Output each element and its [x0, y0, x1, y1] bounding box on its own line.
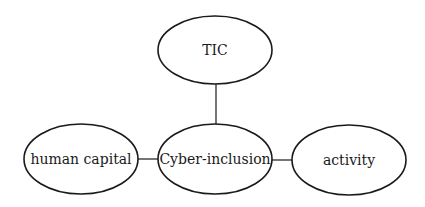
node-human-capital: human capital [24, 124, 138, 194]
node-activity-label: activity [323, 152, 375, 168]
concept-map: TIC human capital Cyber-inclusion activi… [0, 0, 425, 207]
node-tic: TIC [158, 16, 272, 84]
node-tic-label: TIC [202, 42, 228, 58]
diagram-canvas: TIC human capital Cyber-inclusion activi… [0, 0, 425, 207]
node-activity: activity [292, 125, 406, 195]
node-cyber-inclusion: Cyber-inclusion [158, 124, 272, 194]
node-cyber-inclusion-label: Cyber-inclusion [159, 151, 270, 167]
node-human-capital-label: human capital [30, 151, 132, 167]
